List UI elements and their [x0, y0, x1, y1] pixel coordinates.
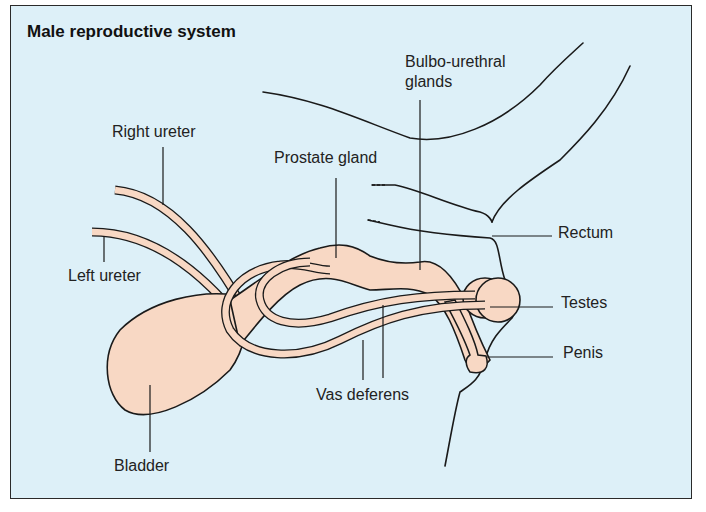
label-vas-deferens: Vas deferens: [316, 385, 409, 404]
testis-front: [476, 278, 520, 322]
label-prostate-gland: Prostate gland: [274, 148, 377, 167]
anatomy-illustration: [0, 0, 706, 512]
label-bulbo-urethral-2: glands: [405, 72, 452, 91]
diagram-title: Male reproductive system: [27, 22, 236, 42]
label-bladder: Bladder: [114, 456, 169, 475]
rectum-upper: [372, 185, 492, 222]
label-right-ureter: Right ureter: [112, 122, 196, 141]
body-outline-lower: [492, 66, 630, 222]
label-bulbo-urethral-1: Bulbo-urethral: [405, 52, 506, 71]
label-rectum: Rectum: [558, 223, 613, 242]
label-testes: Testes: [561, 293, 607, 312]
rectum-lower: [368, 220, 516, 466]
label-penis: Penis: [563, 343, 603, 362]
label-left-ureter: Left ureter: [68, 266, 141, 285]
